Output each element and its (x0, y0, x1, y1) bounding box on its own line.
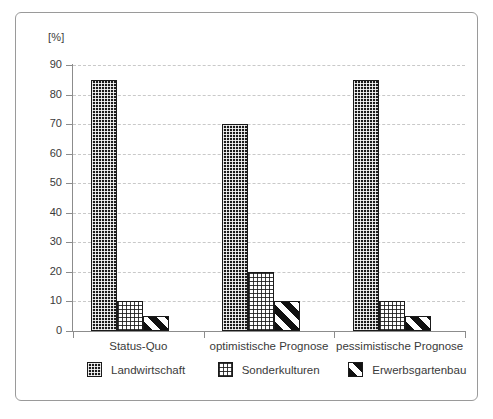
y-tick-10 (66, 301, 73, 302)
legend-swatch-3 (348, 362, 363, 377)
y-tick-0 (66, 331, 73, 332)
y-tick-label-60: 60 (36, 147, 62, 159)
gridline-30 (73, 242, 465, 243)
bar-1-group-1 (91, 80, 117, 331)
x-tick-0 (73, 331, 74, 338)
y-axis-unit-label: [%] (48, 31, 65, 43)
bar-2-group-2 (248, 272, 274, 331)
x-axis-label-3: pessimistische Prognose (334, 340, 465, 352)
bar-1-group-2 (222, 124, 248, 331)
bar-3-group-2 (274, 301, 300, 331)
x-tick-3 (465, 331, 466, 338)
bar-3-group-1 (143, 316, 169, 331)
gridline-80 (73, 95, 465, 96)
y-tick-label-80: 80 (36, 88, 62, 100)
x-axis-line (72, 331, 466, 332)
y-tick-label-40: 40 (36, 206, 62, 218)
x-axis-label-2: optimistische Prognose (204, 340, 335, 352)
legend-label-1: Landwirtschaft (111, 364, 185, 376)
gridline-90 (73, 65, 465, 66)
y-tick-label-20: 20 (36, 265, 62, 277)
legend-item-1[interactable]: Landwirtschaft (87, 362, 185, 377)
legend-item-3[interactable]: Erwerbsgartenbau (348, 362, 466, 377)
x-tick-1 (204, 331, 205, 338)
legend-label-3: Erwerbsgartenbau (372, 364, 466, 376)
y-tick-70 (66, 124, 73, 125)
chart-legend: LandwirtschaftSonderkulturenErwerbsgarte… (73, 362, 465, 384)
legend-item-2[interactable]: Sonderkulturen (218, 362, 320, 377)
y-tick-label-0: 0 (36, 324, 62, 336)
y-tick-label-10: 10 (36, 294, 62, 306)
bar-1-group-3 (353, 80, 379, 331)
y-tick-label-30: 30 (36, 235, 62, 247)
gridline-50 (73, 183, 465, 184)
legend-swatch-2 (218, 362, 233, 377)
y-tick-90 (66, 65, 73, 66)
y-tick-20 (66, 272, 73, 273)
bar-2-group-3 (379, 301, 405, 331)
y-tick-label-50: 50 (36, 176, 62, 188)
y-tick-40 (66, 213, 73, 214)
legend-label-2: Sonderkulturen (242, 364, 320, 376)
y-tick-label-70: 70 (36, 117, 62, 129)
y-tick-60 (66, 154, 73, 155)
y-tick-80 (66, 95, 73, 96)
bar-3-group-3 (405, 316, 431, 331)
gridline-40 (73, 213, 465, 214)
y-tick-30 (66, 242, 73, 243)
plot-area (73, 65, 465, 331)
y-tick-label-90: 90 (36, 58, 62, 70)
x-tick-2 (334, 331, 335, 338)
gridline-70 (73, 124, 465, 125)
x-axis-label-1: Status-Quo (73, 340, 204, 352)
y-tick-50 (66, 183, 73, 184)
chart-figure: [%] 9080706050403020100 Status-Quooptimi… (0, 0, 493, 419)
bar-2-group-1 (117, 301, 143, 331)
gridline-60 (73, 154, 465, 155)
legend-swatch-1 (87, 362, 102, 377)
